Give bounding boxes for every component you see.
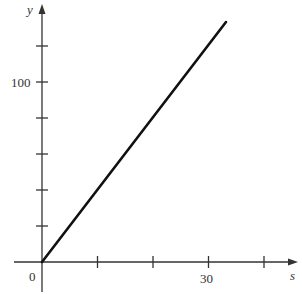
x-axis-arrow-icon <box>288 259 298 266</box>
y-axis-arrow-icon <box>39 4 46 14</box>
data-line <box>42 22 226 262</box>
x-tick-label-30: 30 <box>200 271 213 286</box>
x-axis-label: s <box>290 268 295 283</box>
y-tick-label-100: 100 <box>11 75 31 90</box>
y-axis-label: y <box>25 2 33 17</box>
chart: 0 30 100 s y <box>0 0 302 294</box>
origin-label: 0 <box>29 269 36 284</box>
